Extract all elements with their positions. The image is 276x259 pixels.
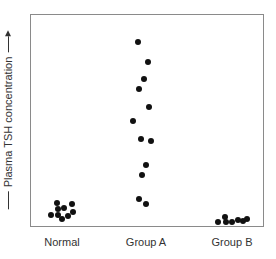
- data-point-group-b: [215, 219, 221, 225]
- y-axis-label: Plasma TSH concentration: [2, 31, 14, 210]
- data-point-group-a: [139, 172, 145, 178]
- x-label-group-a: Group A: [126, 236, 166, 248]
- data-point-group-a: [143, 162, 149, 168]
- data-point-group-a: [143, 201, 149, 207]
- plot-area: [30, 14, 264, 227]
- data-point-normal: [69, 201, 75, 207]
- axis-line-icon: [8, 191, 9, 209]
- data-point-group-a: [136, 86, 142, 92]
- data-point-group-a: [146, 104, 152, 110]
- data-point-group-a: [145, 59, 151, 65]
- arrow-up-icon: [5, 31, 11, 53]
- data-point-group-a: [141, 76, 147, 82]
- x-label-normal: Normal: [44, 236, 79, 248]
- data-point-normal: [70, 209, 76, 215]
- data-point-group-a: [148, 138, 154, 144]
- data-point-normal: [59, 216, 65, 222]
- data-point-group-a: [138, 136, 144, 142]
- data-point-group-a: [136, 196, 142, 202]
- data-point-normal: [61, 205, 67, 211]
- y-axis-title: Plasma TSH concentration: [2, 57, 14, 188]
- data-point-group-b: [244, 216, 250, 222]
- data-point-normal: [65, 213, 71, 219]
- data-point-group-a: [135, 39, 141, 45]
- data-point-normal: [48, 212, 54, 218]
- data-point-group-a: [130, 118, 136, 124]
- x-label-group-b: Group B: [212, 236, 253, 248]
